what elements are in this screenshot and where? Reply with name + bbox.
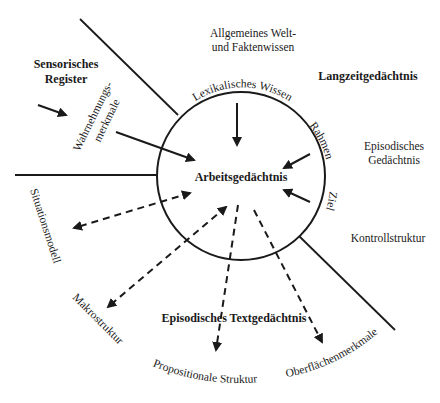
label-propositional-structure: Propositionale Struktur <box>152 357 258 385</box>
label-episodic-text-memory: Episodisches Textgedächtnis <box>161 311 306 325</box>
arrow-sensory-to-perception <box>38 105 66 115</box>
arrow-frame-to-center <box>284 154 310 168</box>
label-episodic-memory-1: Episodisches <box>364 140 425 153</box>
label-longterm-memory: Langzeitgedächtnis <box>318 69 418 83</box>
arrow-macrostructure <box>108 207 226 307</box>
arrow-propositional <box>216 205 238 350</box>
label-control-structure: Kontrollstruktur <box>351 232 426 244</box>
label-surface-features: Oberflächenmerkmale <box>284 325 379 379</box>
label-episodic-memory-2: Gedächtnis <box>368 154 420 166</box>
divider-lower-right <box>299 236 395 330</box>
label-world-knowledge-2: und Faktenwissen <box>212 41 295 53</box>
arrow-situation-model <box>74 193 190 228</box>
label-sensory-register-2: Register <box>45 72 88 86</box>
label-world-knowledge-1: Allgemeines Welt- <box>210 27 296 40</box>
arrow-goal-to-center <box>284 190 310 202</box>
label-working-memory: Arbeitsgedächtnis <box>195 170 288 184</box>
label-situation-model: Situationsmodell <box>28 187 64 265</box>
arrow-perception-to-center <box>116 132 194 160</box>
label-sensory-register-1: Sensorisches <box>34 57 99 71</box>
label-macrostructure: Makrostruktur <box>71 291 127 347</box>
working-memory-diagram: Sensorisches Register Langzeitgedächtnis… <box>0 0 440 403</box>
label-goal: Ziel <box>324 191 340 212</box>
